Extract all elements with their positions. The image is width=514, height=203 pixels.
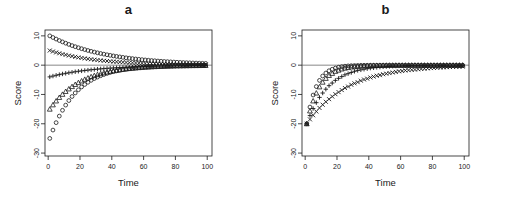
data-point-triangle <box>308 108 313 112</box>
data-point-circle <box>318 79 322 83</box>
x-tick-label: 60 <box>397 163 405 170</box>
data-point-plus <box>320 91 324 95</box>
data-point-cross <box>57 51 61 55</box>
data-point-plus <box>73 70 77 74</box>
data-point-circle <box>77 88 81 92</box>
y-tick-label: -10 <box>291 89 298 99</box>
data-point-plus <box>63 71 67 75</box>
data-point-triangle <box>314 91 319 95</box>
data-point-circle <box>51 128 55 132</box>
panel-a: a 100-10-20-30020406080100TimeScore <box>0 0 257 203</box>
x-tick-label: 100 <box>201 163 213 170</box>
data-point-circle <box>54 121 58 125</box>
x-axis-title: Time <box>375 177 396 188</box>
data-point-plus <box>327 83 331 87</box>
y-tick-label: -30 <box>291 148 298 158</box>
x-tick-label: 0 <box>46 163 50 170</box>
x-tick-label: 20 <box>333 163 341 170</box>
data-point-cross <box>378 73 382 77</box>
x-axis-title: Time <box>118 177 139 188</box>
data-point-circle <box>57 114 61 118</box>
y-tick-label: -20 <box>291 119 298 129</box>
data-point-plus <box>333 78 337 82</box>
y-tick-label: 0 <box>34 63 41 67</box>
data-point-plus <box>54 73 58 77</box>
data-point-circle <box>70 95 74 99</box>
data-point-triangle <box>47 107 52 111</box>
y-tick-label: 10 <box>291 32 298 40</box>
data-point-plus <box>70 70 74 74</box>
y-tick-label: -30 <box>34 148 41 158</box>
x-tick-label: 80 <box>429 163 437 170</box>
x-tick-label: 0 <box>303 163 307 170</box>
x-tick-label: 20 <box>76 163 84 170</box>
data-point-cross <box>372 75 376 79</box>
data-point-plus <box>317 95 321 99</box>
y-tick-label: -20 <box>34 119 41 129</box>
data-point-plus <box>48 75 52 79</box>
data-point-circle <box>64 103 68 107</box>
x-tick-label: 40 <box>108 163 116 170</box>
data-point-plus <box>330 81 334 85</box>
y-tick-label: 10 <box>34 32 41 40</box>
data-point-triangle <box>57 95 62 99</box>
data-point-plus <box>67 71 71 75</box>
data-point-circle <box>48 137 52 141</box>
data-point-circle <box>67 99 71 103</box>
plot-frame <box>45 30 212 156</box>
figure-two-panel: a 100-10-20-30020406080100TimeScore b 10… <box>0 0 514 203</box>
data-point-plus <box>60 72 64 76</box>
data-point-plus <box>51 74 55 78</box>
data-point-circle <box>321 74 325 78</box>
data-point-circle <box>61 108 65 112</box>
panel-b: b 100-10-20-30020406080100TimeScore <box>257 0 514 203</box>
data-point-cross <box>330 95 334 99</box>
data-point-plus <box>57 72 61 76</box>
y-axis-title: Score <box>269 81 280 106</box>
x-tick-label: 40 <box>365 163 373 170</box>
series-4-circle <box>48 63 208 140</box>
data-point-cross <box>48 49 52 53</box>
panel-a-plot: 100-10-20-30020406080100TimeScore <box>0 0 257 203</box>
y-axis-title: Score <box>12 81 23 106</box>
x-tick-label: 80 <box>172 163 180 170</box>
panel-b-plot: 100-10-20-30020406080100TimeScore <box>257 0 514 203</box>
data-point-cross <box>51 50 55 54</box>
y-tick-label: -10 <box>34 89 41 99</box>
data-point-plus <box>324 87 328 91</box>
x-tick-label: 100 <box>458 163 470 170</box>
data-point-cross <box>54 50 58 54</box>
data-point-circle <box>73 91 77 95</box>
y-tick-label: 0 <box>291 63 298 67</box>
plot-frame <box>302 30 469 156</box>
x-tick-label: 60 <box>140 163 148 170</box>
data-point-cross <box>308 117 312 121</box>
